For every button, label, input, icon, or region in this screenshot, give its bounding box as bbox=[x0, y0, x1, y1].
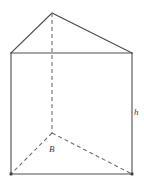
hidden-base-edge-left bbox=[11, 133, 52, 174]
height-label: h bbox=[134, 108, 139, 117]
vertex-dot-bottom-left bbox=[10, 173, 13, 176]
roof-edges bbox=[11, 13, 132, 53]
prism-vector-graphic bbox=[0, 0, 144, 187]
hidden-base-edge-right bbox=[52, 133, 132, 174]
prism-figure-canvas: h B bbox=[0, 0, 144, 187]
vertex-dot-bottom-right bbox=[131, 173, 134, 176]
base-label: B bbox=[49, 145, 55, 154]
